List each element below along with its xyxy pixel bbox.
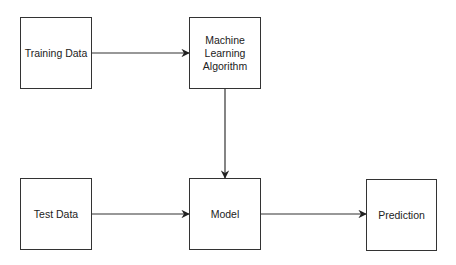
node-label: Machine Learning Algorithm bbox=[203, 34, 247, 73]
node-label: Prediction bbox=[378, 209, 425, 222]
node-prediction: Prediction bbox=[366, 179, 437, 251]
node-label: Training Data bbox=[25, 47, 88, 60]
node-model: Model bbox=[189, 178, 261, 250]
node-test-data: Test Data bbox=[20, 178, 92, 250]
node-label: Test Data bbox=[34, 208, 78, 221]
node-ml-algorithm: Machine Learning Algorithm bbox=[189, 17, 261, 89]
node-label: Model bbox=[211, 208, 240, 221]
node-training-data: Training Data bbox=[20, 17, 92, 89]
